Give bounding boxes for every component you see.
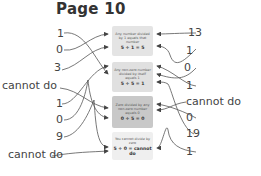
right-answer-label: 1 [186, 146, 193, 158]
right-answer-label: 1 [186, 45, 193, 57]
rule-box-divide-by-itself: Any non-zero number divided by itself eq… [112, 62, 153, 92]
left-answer-label: 9 [56, 131, 63, 143]
rule-box-zero-divided: Zero divided by any non-zero number equa… [112, 96, 153, 128]
right-answer-label: 1 [186, 80, 193, 92]
left-answer-label: 1 [57, 28, 64, 40]
rule-equation: 0 ÷ 5 = 0 [121, 116, 145, 121]
right-answer-label: cannot do [186, 96, 241, 108]
rule-box-divide-by-one: Any number divided by 1 equals that numb… [112, 26, 153, 56]
left-answer-label: 0 [56, 114, 63, 126]
rule-equation: 5 ÷ 0 = cannot do [112, 146, 153, 156]
left-answer-label: cannot do [8, 149, 63, 161]
rule-equation: 5 ÷ 5 = 1 [121, 81, 145, 86]
rule-text: You cannot divide by zero [112, 137, 153, 145]
rule-box-divide-by-zero: You cannot divide by zero 5 ÷ 0 = cannot… [112, 132, 153, 160]
left-answer-label: cannot do [2, 80, 57, 92]
right-answer-label: 0 [186, 112, 193, 124]
left-answer-label: 0 [56, 44, 63, 56]
left-answer-label: 1 [56, 98, 63, 110]
left-answer-label: 3 [54, 62, 61, 74]
rule-text: Any number divided by 1 equals that numb… [112, 32, 153, 44]
right-answer-label: 0 [184, 62, 191, 74]
right-answer-label: 13 [188, 27, 202, 39]
rule-text: Any non-zero number divided by itself eq… [112, 68, 153, 80]
right-answer-label: 19 [186, 128, 200, 140]
rule-text: Zero divided by any non-zero number equa… [112, 103, 153, 115]
rule-equation: 5 ÷ 1 = 5 [121, 45, 145, 50]
